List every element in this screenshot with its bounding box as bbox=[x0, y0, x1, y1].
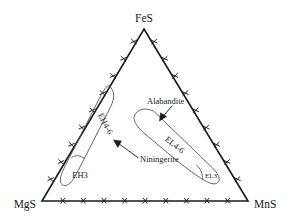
field-label-el3: EL3 bbox=[205, 172, 218, 180]
tick-mark bbox=[121, 56, 126, 61]
vertex-label-mgs: MgS bbox=[14, 198, 36, 211]
field-label-eh46: EH4-6 bbox=[96, 111, 115, 136]
alabandite-annotation-group: Alabandite bbox=[147, 96, 185, 121]
alabandite-field-group: EL4-6 EL3 bbox=[134, 109, 219, 184]
niningerite-arrowhead-icon bbox=[114, 140, 122, 148]
niningerite-leader-line bbox=[119, 144, 139, 159]
annotation-label-alabandite: Alabandite bbox=[147, 96, 185, 106]
tick-mark bbox=[58, 159, 63, 164]
tick-mark bbox=[69, 142, 74, 147]
annotation-label-niningerite: Niningerite bbox=[140, 154, 179, 164]
field-label-eh3: EH3 bbox=[72, 170, 88, 180]
tick-group-left-edge-cross bbox=[48, 39, 137, 182]
vertex-label-fes: FeS bbox=[135, 12, 153, 24]
ternary-diagram-figure: EH4-6 EH3 EL4-6 EL3 Niningerite Alabandi… bbox=[0, 0, 289, 223]
tick-mark bbox=[48, 177, 53, 182]
niningerite-subfield-divider bbox=[72, 156, 85, 159]
vertex-label-mns: MnS bbox=[254, 198, 276, 210]
tick-mark bbox=[110, 73, 115, 78]
niningerite-field-group: EH4-6 EH3 bbox=[60, 86, 115, 186]
ternary-diagram-svg: EH4-6 EH3 EL4-6 EL3 Niningerite Alabandi… bbox=[0, 0, 289, 223]
